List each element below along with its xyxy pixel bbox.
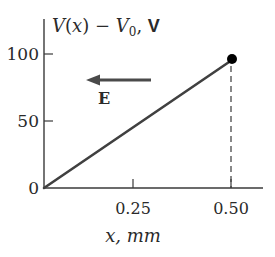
e-field-label: E	[98, 89, 110, 108]
chart: 100 50 0 0.25 0.50 x, mm V(x) − V0, V E	[0, 0, 275, 257]
x-tick-label-050: 0.50	[213, 199, 249, 218]
x-tick-label-025: 0.25	[115, 199, 151, 218]
e-field-arrow-icon	[86, 75, 151, 86]
y-tick-label-0: 0	[28, 178, 39, 198]
x-axis-label: x, mm	[105, 225, 161, 246]
endpoint-marker	[227, 54, 237, 64]
y-tick-label-100: 100	[7, 44, 39, 64]
y-tick-label-50: 50	[17, 111, 39, 131]
y-axis-label: V(x) − V0, V	[52, 15, 160, 39]
